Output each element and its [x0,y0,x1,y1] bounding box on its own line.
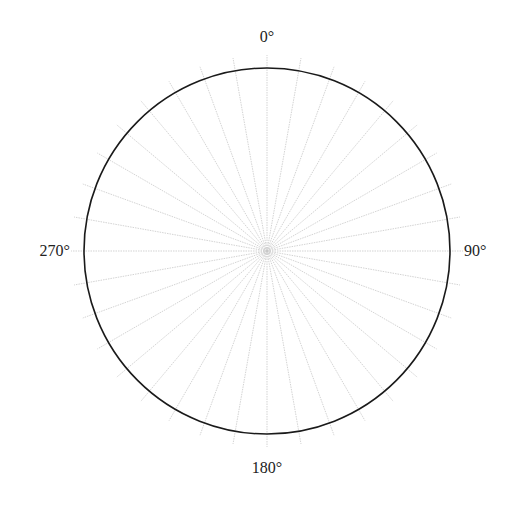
spoke-line [267,125,417,251]
label-270-deg: 270° [40,242,70,259]
spoke-line [267,251,393,401]
spoke-line [141,251,267,401]
label-90-deg: 90° [464,242,486,259]
label-0-deg: 0° [260,28,274,45]
spoke-line [267,251,417,377]
radial-grid-lines [71,55,463,447]
spoke-line [141,101,267,251]
polar-plot: 0° 90° 180° 270° [0,0,513,508]
label-180-deg: 180° [252,459,282,476]
spoke-line [267,101,393,251]
spoke-line [117,125,267,251]
spoke-line [117,251,267,377]
